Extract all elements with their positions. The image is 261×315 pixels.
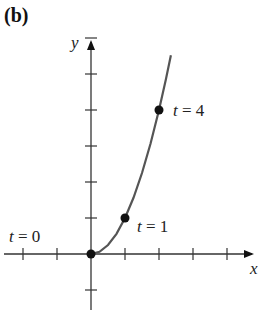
y-axis-label: y xyxy=(69,33,79,52)
annotation-t=0: t = 0 xyxy=(9,227,40,246)
parametric-curve-figure: (b) x y t = 0t = 1t = 4 xyxy=(0,0,261,315)
x-axis-label: x xyxy=(249,259,258,278)
point-t-1 xyxy=(121,214,130,223)
point-t-4 xyxy=(155,106,164,115)
point-t-0 xyxy=(87,250,96,259)
point-annotations: t = 0t = 1t = 4 xyxy=(9,101,205,246)
annotation-t=1: t = 1 xyxy=(137,217,168,236)
panel-label: (b) xyxy=(4,4,28,27)
annotation-t=4: t = 4 xyxy=(173,101,205,120)
